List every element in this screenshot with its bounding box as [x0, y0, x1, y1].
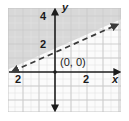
origin-point: [53, 70, 57, 74]
graph-figure: 4 2 2 2 y x (0, 0): [0, 0, 129, 121]
coordinate-plane-svg: [0, 0, 129, 121]
